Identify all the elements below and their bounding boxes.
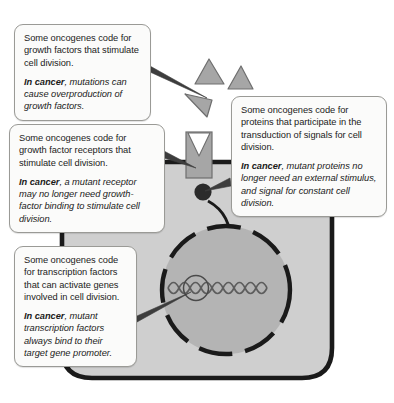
callout-transduction-plain: Some oncogenes code for proteins that pa…: [241, 104, 378, 153]
callout-transduction: Some oncogenes code for proteins that pa…: [231, 96, 387, 217]
in-cancer-label: In cancer: [241, 161, 281, 171]
in-cancer-label: In cancer: [19, 177, 59, 187]
callout-transduction-cancer: In cancer, mutant proteins no longer nee…: [241, 160, 378, 209]
oncogene-diagram: Some oncogenes code for growth factors t…: [0, 0, 394, 403]
callout-receptors: Some oncogenes code for growth factor re…: [9, 124, 165, 233]
callout-receptors-cancer: In cancer, a mutant receptor may no long…: [19, 176, 156, 225]
in-cancer-label: In cancer: [24, 311, 64, 321]
growth-factor-triangle: [228, 66, 253, 89]
in-cancer-label: In cancer: [24, 77, 64, 87]
signal-transduction-protein: [194, 183, 211, 200]
growth-factor-triangle: [185, 94, 212, 117]
callout-transcription-plain: Some oncogenes code for transcription fa…: [24, 254, 128, 303]
callout-growth-factors: Some oncogenes code for growth factors t…: [14, 24, 151, 121]
callout-transcription-cancer: In cancer, mutant transcription factors …: [24, 310, 128, 359]
callout-transcription: Some oncogenes code for transcription fa…: [14, 246, 137, 367]
callout-receptors-plain: Some oncogenes code for growth factor re…: [19, 132, 156, 169]
callout-growth-factors-plain: Some oncogenes code for growth factors t…: [24, 32, 142, 69]
growth-factor-triangle: [195, 59, 224, 84]
callout-growth-factors-cancer: In cancer, mutations can cause overprodu…: [24, 76, 142, 113]
